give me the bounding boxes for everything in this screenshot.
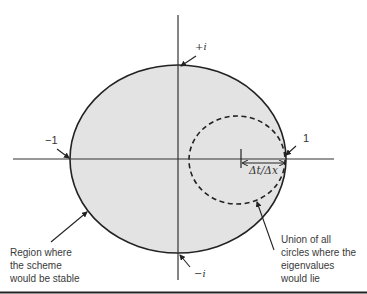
label-plus-i: +i [195,40,207,53]
label-radius: Δt/Δx [249,164,278,177]
label-minus-one: −1 [45,134,58,147]
arrow-minus-one [57,149,69,158]
arrow-minus-i [180,255,190,267]
annotation-line: circles where the [281,246,356,259]
arrow-plus-i [181,56,196,66]
annotation-line: the scheme [10,259,80,272]
label-one: 1 [303,132,309,145]
annotation-eigenvalue-circles: Union of all circles where the eigenvalu… [281,233,356,285]
label-minus-i: −i [194,267,206,280]
annotation-line: Region where [10,246,80,259]
arrow-one [286,146,296,155]
annotation-line: eigenvalues [281,259,356,272]
arrow-stable-region [51,212,87,242]
annotation-stable-region: Region where the scheme would be stable [10,246,80,285]
annotation-line: would be stable [10,272,80,285]
annotation-line: would lie [281,272,356,285]
annotation-line: Union of all [281,233,356,246]
